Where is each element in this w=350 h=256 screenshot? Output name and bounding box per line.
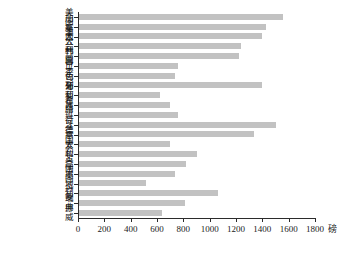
x-axis-tick-label: 200 <box>98 224 112 235</box>
bar <box>78 171 175 177</box>
y-axis-tick <box>74 66 78 67</box>
bar-row <box>78 130 315 140</box>
x-axis-tick <box>104 218 105 222</box>
bar <box>78 161 186 167</box>
y-axis-tick <box>74 144 78 145</box>
bar-row <box>78 169 315 179</box>
x-axis-tick <box>131 218 132 222</box>
bar <box>78 131 254 137</box>
x-axis-tick-label: 1200 <box>227 224 245 235</box>
y-axis-tick <box>74 115 78 116</box>
bar-row <box>78 120 315 130</box>
y-axis-tick <box>74 95 78 96</box>
bar <box>78 53 239 59</box>
y-axis-tick <box>74 125 78 126</box>
x-axis-tick <box>78 218 79 222</box>
bar-row <box>78 61 315 71</box>
bar <box>78 92 160 98</box>
y-axis-tick <box>74 105 78 106</box>
bar-row <box>78 22 315 32</box>
y-axis-tick <box>74 184 78 185</box>
x-axis-tick <box>289 218 290 222</box>
bar-row <box>78 110 315 120</box>
y-axis-tick <box>74 27 78 28</box>
bar-row <box>78 12 315 22</box>
bar-row <box>78 159 315 169</box>
x-axis-tick-label: 400 <box>124 224 138 235</box>
x-axis-tick-label: 800 <box>177 224 191 235</box>
category-label: 挪威 <box>64 204 73 222</box>
bar <box>78 122 276 128</box>
bar <box>78 33 262 39</box>
y-axis-tick <box>74 164 78 165</box>
y-axis-tick <box>74 17 78 18</box>
x-axis-tick-label: 1600 <box>280 224 298 235</box>
bar-row <box>78 100 315 110</box>
bar <box>78 210 162 216</box>
x-axis-tick-label: 1400 <box>253 224 271 235</box>
y-axis-line <box>78 12 79 219</box>
y-axis-tick <box>74 76 78 77</box>
x-axis-tick <box>157 218 158 222</box>
bar-row <box>78 149 315 159</box>
bar-row <box>78 81 315 91</box>
bar <box>78 112 178 118</box>
y-axis-tick <box>74 46 78 47</box>
bar-row <box>78 139 315 149</box>
bar-row <box>78 41 315 51</box>
bar <box>78 14 283 20</box>
bar-row <box>78 179 315 189</box>
x-axis-tick-label: 1000 <box>201 224 219 235</box>
bar-row <box>78 198 315 208</box>
y-axis-tick <box>74 213 78 214</box>
bar <box>78 102 170 108</box>
x-axis-tick-label: 600 <box>150 224 164 235</box>
bar <box>78 63 178 69</box>
category-axis-labels: 美国加拿大新西兰澳大利亚韩国日本以色列匈牙利葡萄牙希腊西班牙荷兰德国意大利爱尔兰… <box>0 10 74 220</box>
y-axis-tick <box>74 203 78 204</box>
plot-area <box>78 12 315 218</box>
y-axis-tick <box>74 86 78 87</box>
bar-row <box>78 90 315 100</box>
x-axis-tick <box>210 218 211 222</box>
x-axis-tick <box>315 218 316 222</box>
y-axis-tick <box>74 174 78 175</box>
x-axis-tick <box>236 218 237 222</box>
bar <box>78 43 241 49</box>
bar-chart: 美国加拿大新西兰澳大利亚韩国日本以色列匈牙利葡萄牙希腊西班牙荷兰德国意大利爱尔兰… <box>0 0 350 256</box>
bar <box>78 151 197 157</box>
bar-row <box>78 208 315 218</box>
bar-row <box>78 188 315 198</box>
x-axis-unit-label: 磅 <box>328 224 337 235</box>
y-axis-tick <box>74 56 78 57</box>
bar <box>78 190 218 196</box>
y-axis-tick <box>74 37 78 38</box>
bar <box>78 73 175 79</box>
bar <box>78 180 146 186</box>
bar <box>78 200 185 206</box>
bar-row <box>78 51 315 61</box>
bar <box>78 82 262 88</box>
x-axis-tick <box>183 218 184 222</box>
bar <box>78 24 266 30</box>
bar-row <box>78 32 315 42</box>
bar-row <box>78 71 315 81</box>
x-axis-line <box>78 218 315 219</box>
x-axis-tick-label: 1800 <box>306 224 324 235</box>
x-axis-tick-label: 0 <box>76 224 81 235</box>
y-axis-tick <box>74 135 78 136</box>
y-axis-tick <box>74 154 78 155</box>
bar <box>78 141 170 147</box>
y-axis-tick <box>74 193 78 194</box>
x-axis-tick <box>262 218 263 222</box>
